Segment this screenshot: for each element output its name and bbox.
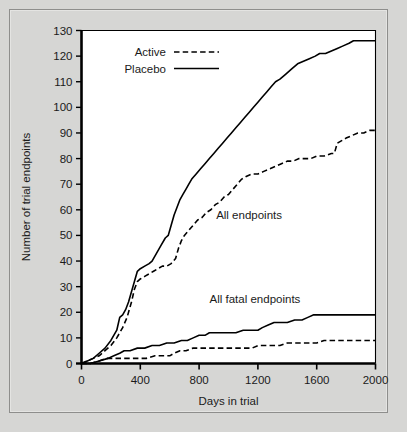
figure-canvas: 0102030405060708090100110120130040080012…: [0, 0, 407, 432]
legend-label-placebo: Placebo: [124, 63, 166, 75]
y-tick-label-30: 30: [60, 281, 73, 293]
line-chart: 0102030405060708090100110120130040080012…: [0, 0, 407, 432]
y-tick-label-60: 60: [60, 204, 73, 216]
x-tick-label-800: 800: [190, 374, 209, 386]
y-tick-label-20: 20: [60, 306, 73, 318]
x-tick-label-0: 0: [78, 374, 84, 386]
legend-label-active: Active: [135, 46, 166, 58]
y-tick-label-130: 130: [53, 25, 72, 37]
x-tick-label-400: 400: [131, 374, 150, 386]
x-tick-label-2000: 2000: [363, 374, 389, 386]
plot-area-background: [82, 31, 376, 364]
y-tick-label-100: 100: [53, 101, 72, 113]
annotation-all-fatal-endpoints: All fatal endpoints: [210, 293, 301, 305]
y-tick-label-90: 90: [60, 127, 73, 139]
y-tick-label-50: 50: [60, 229, 73, 241]
y-tick-label-0: 0: [66, 358, 72, 370]
y-tick-label-40: 40: [60, 255, 73, 267]
x-tick-label-1600: 1600: [304, 374, 330, 386]
annotation-all-endpoints: All endpoints: [216, 209, 282, 221]
y-tick-label-110: 110: [54, 76, 72, 88]
chart-container: 0102030405060708090100110120130040080012…: [0, 0, 407, 432]
y-axis-title: Number of trial endpoints: [20, 133, 32, 262]
x-tick-label-1200: 1200: [245, 374, 271, 386]
y-tick-label-10: 10: [60, 332, 73, 344]
y-tick-label-120: 120: [53, 50, 72, 62]
y-tick-label-80: 80: [60, 153, 73, 165]
y-tick-label-70: 70: [60, 178, 73, 190]
x-axis-title: Days in trial: [198, 395, 258, 407]
